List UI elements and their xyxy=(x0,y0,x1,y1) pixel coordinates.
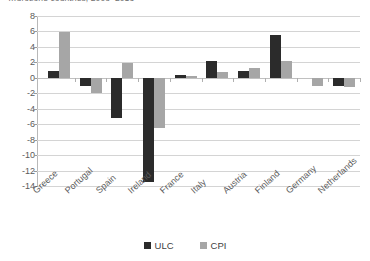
x-tick-mark xyxy=(297,78,298,82)
x-tick-mark xyxy=(265,78,266,82)
gridline xyxy=(37,31,360,32)
legend-swatch-icon xyxy=(144,242,151,249)
bar[interactable] xyxy=(154,78,165,128)
y-tick-mark xyxy=(34,78,37,79)
y-tick-mark xyxy=(34,124,37,125)
bar[interactable] xyxy=(186,76,197,78)
y-tick-label: 4 xyxy=(2,42,35,51)
legend-label: ULC xyxy=(155,240,174,251)
x-tick-mark xyxy=(138,78,139,82)
bar[interactable] xyxy=(270,35,281,78)
y-tick-label: -12 xyxy=(2,166,35,175)
y-tick-label: -6 xyxy=(2,120,35,129)
plot-area xyxy=(37,16,360,186)
bar[interactable] xyxy=(312,78,323,86)
bar[interactable] xyxy=(217,72,228,77)
y-tick-label: 6 xyxy=(2,27,35,36)
bar[interactable] xyxy=(333,78,344,86)
x-axis-labels: GreecePortugalSpainIrelandFranceItalyAus… xyxy=(0,186,370,241)
x-tick-mark xyxy=(233,78,234,82)
x-tick-mark xyxy=(170,78,171,82)
x-tick-mark xyxy=(328,78,329,82)
gridline xyxy=(37,93,360,94)
bar[interactable] xyxy=(238,71,249,78)
y-tick-mark xyxy=(34,109,37,110)
bar[interactable] xyxy=(206,61,217,78)
y-tick-mark xyxy=(34,155,37,156)
y-tick-label: -8 xyxy=(2,135,35,144)
legend-swatch-icon xyxy=(200,242,207,249)
gridline xyxy=(37,140,360,141)
bar[interactable] xyxy=(111,78,122,118)
chart-legend: ULCCPI xyxy=(0,240,370,251)
legend-item[interactable]: ULC xyxy=(144,240,174,251)
bar[interactable] xyxy=(48,71,59,78)
y-tick-label: -2 xyxy=(2,89,35,98)
y-tick-mark xyxy=(34,47,37,48)
gridline xyxy=(37,124,360,125)
gridline xyxy=(37,155,360,156)
y-tick-label: -4 xyxy=(2,104,35,113)
y-tick-mark xyxy=(34,171,37,172)
bar[interactable] xyxy=(80,78,91,87)
gridline xyxy=(37,16,360,17)
legend-label: CPI xyxy=(211,240,227,251)
bar[interactable] xyxy=(344,78,355,87)
y-tick-mark xyxy=(34,16,37,17)
bar[interactable] xyxy=(59,32,70,78)
bar[interactable] xyxy=(281,61,292,78)
x-tick-mark xyxy=(202,78,203,82)
bar[interactable] xyxy=(175,75,186,78)
gridline xyxy=(37,47,360,48)
bar[interactable] xyxy=(249,68,260,78)
legend-item[interactable]: CPI xyxy=(200,240,227,251)
bar[interactable] xyxy=(122,63,133,78)
y-axis-line xyxy=(37,16,38,186)
y-tick-mark xyxy=(34,140,37,141)
gridline xyxy=(37,62,360,63)
y-tick-label: 0 xyxy=(2,73,35,82)
gridline xyxy=(37,109,360,110)
y-tick-label: -10 xyxy=(2,151,35,160)
bar[interactable] xyxy=(143,78,154,182)
bar[interactable] xyxy=(91,78,102,93)
y-tick-label: 2 xyxy=(2,58,35,67)
y-tick-mark xyxy=(34,31,37,32)
y-tick-mark xyxy=(34,62,37,63)
chart-title: …urozone countries, 2008–2013 xyxy=(8,0,134,3)
y-tick-label: 8 xyxy=(2,12,35,21)
y-tick-mark xyxy=(34,93,37,94)
x-tick-mark xyxy=(360,78,361,82)
y-axis-labels: 86420-2-4-6-8-10-12-14 xyxy=(0,16,35,186)
x-tick-mark xyxy=(75,78,76,82)
x-tick-mark xyxy=(106,78,107,82)
